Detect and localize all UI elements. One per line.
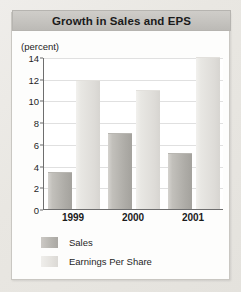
y-axis-tick-label: 4 [34, 161, 39, 172]
bar-sales-1999 [48, 172, 72, 209]
chart-card: Growth in Sales and EPS (percent) 024681… [11, 12, 230, 280]
bar-sales-2000 [108, 133, 132, 209]
y-axis-tick-label: 2 [34, 183, 39, 194]
legend-label: Earnings Per Share [69, 256, 152, 267]
legend-item-sales: Sales [41, 233, 221, 252]
legend-swatch-icon [41, 237, 58, 248]
x-axis-label-1999: 1999 [62, 212, 84, 223]
bar-group [164, 58, 224, 209]
x-axis-labels: 199920002001 [43, 212, 223, 226]
y-axis-tick-label: 10 [28, 96, 39, 107]
x-axis-label-2001: 2001 [182, 212, 204, 223]
chart-figure: Growth in Sales and EPS (percent) 024681… [0, 0, 241, 292]
legend-item-earnings-per-share: Earnings Per Share [41, 252, 221, 271]
chart-title: Growth in Sales and EPS [52, 15, 191, 27]
bar-sales-2001 [168, 153, 192, 209]
bar-group [104, 58, 164, 209]
bar-earnings-per-share-2001 [196, 57, 220, 209]
bar-earnings-per-share-2000 [136, 90, 160, 209]
y-axis-tick-label: 0 [34, 205, 39, 216]
y-axis-tick-column: 02468101214 [21, 58, 43, 210]
y-axis-tick-label: 14 [28, 53, 39, 64]
legend-swatch-icon [41, 256, 58, 267]
y-axis-unit-caption: (percent) [21, 41, 59, 52]
bar-group [44, 58, 104, 209]
bar-earnings-per-share-1999 [76, 80, 100, 209]
x-axis-label-2000: 2000 [122, 212, 144, 223]
chart-legend: SalesEarnings Per Share [41, 233, 221, 271]
y-axis-tick-label: 6 [34, 139, 39, 150]
y-axis-tick-label: 8 [34, 118, 39, 129]
legend-label: Sales [69, 237, 93, 248]
plot-area [43, 58, 223, 210]
chart-title-band: Growth in Sales and EPS [12, 10, 231, 31]
plot-area-wrapper: 02468101214 [21, 58, 223, 210]
bars-layer [44, 58, 223, 209]
y-axis-tick-label: 12 [28, 74, 39, 85]
